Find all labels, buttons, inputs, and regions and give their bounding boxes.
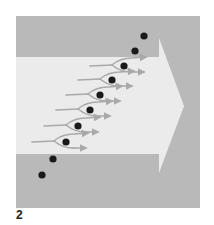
flow-diagram: 2 [0,0,214,225]
particle-dot [62,138,69,145]
particle-dot [108,76,115,83]
flow-diagram-graphic [0,0,214,225]
particle-dot [49,155,56,162]
particle-dot [86,106,93,113]
streamline-stem [66,94,88,95]
particle-dot [96,91,103,98]
particle-dot [131,47,138,54]
flow-band-arrow [16,38,184,173]
streamline-stem [90,65,112,66]
streamline-stem [32,141,54,142]
figure-label: 2 [16,208,23,222]
streamline-stem [44,125,66,126]
particle-dot [140,32,147,39]
particle-dot [38,171,45,178]
particle-dot [74,122,81,129]
streamline-stem [56,109,78,110]
streamline-stem [78,79,100,80]
particle-dot [120,62,127,69]
